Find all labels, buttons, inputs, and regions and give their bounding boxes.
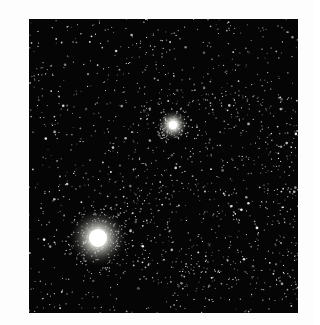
star <box>63 67 64 68</box>
star <box>73 106 74 107</box>
star <box>201 135 202 136</box>
star <box>175 309 176 310</box>
star <box>215 232 216 233</box>
star <box>197 29 198 30</box>
star <box>85 108 88 111</box>
star <box>191 258 192 259</box>
star <box>169 157 170 158</box>
star <box>227 83 228 84</box>
star <box>137 83 138 84</box>
star <box>240 299 241 300</box>
star <box>34 281 35 282</box>
star <box>287 72 288 73</box>
star <box>55 120 56 121</box>
cluster-star <box>162 138 163 139</box>
star <box>256 225 257 226</box>
cluster-star <box>109 271 110 272</box>
star <box>171 154 174 157</box>
star <box>113 143 114 144</box>
star <box>32 132 33 133</box>
star <box>278 278 279 279</box>
star <box>179 251 180 252</box>
star <box>238 113 239 114</box>
star <box>126 263 127 264</box>
star <box>181 275 183 277</box>
star <box>124 137 127 140</box>
star <box>38 74 39 75</box>
star <box>191 264 192 265</box>
star <box>143 258 145 260</box>
star <box>205 261 206 262</box>
star <box>118 105 119 106</box>
star <box>138 125 139 126</box>
star <box>190 239 191 240</box>
star <box>155 127 156 128</box>
star <box>264 90 265 91</box>
star <box>248 173 250 175</box>
star <box>230 94 231 95</box>
star <box>199 200 200 201</box>
star <box>240 261 241 262</box>
star <box>76 90 77 91</box>
star <box>141 105 142 106</box>
star <box>146 278 147 279</box>
star <box>242 147 243 148</box>
star <box>183 188 184 189</box>
star <box>76 168 77 169</box>
star <box>168 236 169 237</box>
star <box>280 242 282 244</box>
star <box>211 229 212 230</box>
star <box>297 39 298 40</box>
star <box>161 102 162 103</box>
star <box>129 218 130 219</box>
star <box>278 146 279 147</box>
star <box>265 207 266 208</box>
star <box>200 161 201 162</box>
star <box>262 99 263 100</box>
star <box>125 224 126 225</box>
cluster-star <box>105 268 106 269</box>
star <box>162 185 163 186</box>
cluster-star <box>109 267 110 268</box>
star <box>267 190 268 191</box>
star <box>217 145 218 146</box>
star <box>223 65 224 66</box>
star <box>127 255 128 256</box>
star <box>256 282 257 283</box>
star <box>206 133 207 134</box>
star <box>197 245 198 246</box>
star <box>101 185 102 186</box>
sky-background <box>29 19 298 313</box>
star <box>199 109 200 110</box>
star <box>124 91 125 92</box>
star <box>245 310 246 311</box>
star <box>231 236 232 237</box>
star <box>235 49 236 50</box>
star <box>222 87 223 88</box>
star <box>116 298 117 299</box>
star <box>107 103 108 104</box>
star <box>287 255 288 256</box>
star <box>120 46 121 47</box>
cluster-star <box>91 205 92 206</box>
star <box>151 163 152 164</box>
star <box>161 190 162 191</box>
star <box>294 186 297 189</box>
star <box>236 109 237 110</box>
star <box>223 120 225 122</box>
star <box>38 42 39 43</box>
star <box>246 131 247 132</box>
star <box>270 133 271 134</box>
star <box>262 114 263 115</box>
star <box>236 283 237 284</box>
star <box>54 124 55 125</box>
star <box>279 96 281 98</box>
star <box>218 205 219 206</box>
star <box>71 186 72 187</box>
cluster-star <box>74 216 75 217</box>
star <box>94 307 96 309</box>
star <box>203 98 204 99</box>
star <box>281 283 284 286</box>
star <box>165 186 166 187</box>
star <box>177 284 178 285</box>
